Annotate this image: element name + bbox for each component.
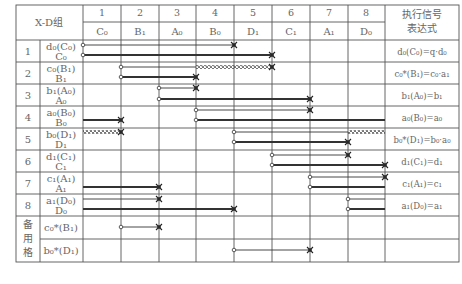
row-index: 2 (25, 68, 31, 79)
row-index: 8 (25, 200, 31, 211)
step-action: D₀ (360, 26, 372, 37)
row-expression: b₀*(D₁)=b₀·a₀ (393, 135, 451, 145)
row-action: B₁ (55, 73, 66, 84)
row-expression: d₁(C₁)=d₁ (401, 157, 442, 167)
title-cell: X-D组 (35, 16, 63, 28)
step-action: B₁ (134, 26, 145, 37)
row-index: 7 (25, 178, 31, 189)
row-expression: a₀(B₀)=a₀ (402, 113, 443, 123)
spare-signal: b₀*(D₁) (43, 245, 78, 256)
row-action: B₀ (55, 117, 66, 128)
step-action: A₀ (170, 26, 182, 37)
row-expression: c₁(A₁)=c₁ (402, 179, 442, 189)
expression-header: 表达式 (407, 22, 437, 34)
step-number: 2 (137, 7, 143, 18)
x-d-diagram: X-D组 1 2 3 4 5 6 7 8 C₀ B₁ A₀ B₀ D₁ C₁ A… (0, 0, 462, 284)
row-expression: a₁(D₀)=a₁ (402, 201, 443, 211)
row-action: A₁ (54, 183, 66, 194)
spare-signal: c₀*(B₁) (44, 222, 78, 233)
spare-label: 用 (23, 233, 33, 244)
step-number: 8 (363, 7, 369, 18)
expression-header: 执行信号 (402, 8, 442, 20)
signal-lines (81, 42, 388, 253)
row-expression: c₀*(B₁)=c₀·a₁ (394, 69, 449, 79)
step-number: 3 (174, 7, 180, 18)
step-number: 6 (288, 7, 294, 18)
row-action: C₀ (55, 51, 67, 62)
spare-label: 格 (23, 246, 33, 258)
row-expression: b₁(A₀)=b₁ (402, 91, 443, 101)
step-number: 4 (212, 7, 218, 18)
step-action: D₁ (247, 26, 259, 37)
row-action: C₁ (55, 161, 67, 172)
row-index: 4 (25, 112, 31, 123)
row-index: 6 (25, 156, 31, 167)
row-action: D₀ (55, 205, 67, 216)
spare-label: 备 (23, 218, 33, 230)
row-action: D₁ (55, 139, 67, 150)
row-labels: 1 d₀(C₀) C₀ d₀(C₀)=q·d₀ 2 c₀(B₁) B₁ c₀*(… (23, 41, 451, 258)
step-number: 5 (250, 7, 256, 18)
step-number: 1 (99, 7, 105, 18)
row-expression: d₀(C₀)=q·d₀ (397, 47, 447, 57)
step-action: C₀ (96, 26, 108, 37)
step-action: C₁ (285, 26, 297, 37)
row-action: A₀ (54, 95, 66, 106)
row-index: 5 (25, 134, 31, 145)
row-index: 3 (25, 90, 31, 101)
step-action: A₁ (322, 26, 334, 37)
row-index: 1 (25, 46, 31, 57)
step-number: 7 (326, 7, 332, 18)
step-action: B₀ (209, 26, 220, 37)
